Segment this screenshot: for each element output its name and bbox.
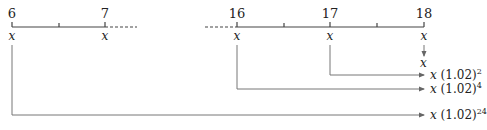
tick-label-7: 7: [101, 7, 109, 20]
variable-x-18: x: [421, 30, 428, 42]
result-6: x (1.02)24: [430, 108, 487, 121]
variable-x-17: x: [327, 30, 334, 42]
result-18: x: [420, 57, 427, 69]
arrow-6: [12, 45, 424, 115]
result-17: x (1.02)2: [430, 68, 482, 81]
right-timeline: [205, 22, 424, 27]
tick-label-16: 16: [229, 7, 246, 20]
connector-arrows: [12, 45, 424, 115]
result-16: x (1.02)4: [430, 82, 482, 95]
tick-label-6: 6: [8, 7, 16, 20]
tick-label-18: 18: [416, 7, 433, 20]
variable-x-7: x: [102, 30, 109, 42]
left-timeline: [12, 22, 137, 27]
tick-label-17: 17: [322, 7, 339, 20]
variable-x-16: x: [234, 30, 241, 42]
arrow-17: [330, 45, 424, 75]
variable-x-6: x: [9, 30, 16, 42]
